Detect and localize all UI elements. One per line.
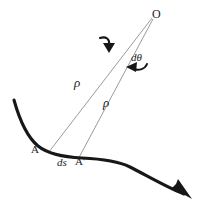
label-arc-length-ds: ds xyxy=(57,157,67,168)
label-point-a: A xyxy=(31,144,39,155)
curve-path xyxy=(14,100,184,194)
label-d-theta: dθ xyxy=(131,52,142,63)
angle-arrow-inner-head xyxy=(126,62,137,72)
radius-line-2 xyxy=(79,19,153,158)
label-rho-2: ρ xyxy=(103,96,109,109)
path-arrowhead xyxy=(172,179,192,199)
curvature-diagram: O dθ ρ ρ A ds A' xyxy=(0,0,206,208)
label-point-a-prime: A' xyxy=(75,156,85,167)
angle-arrow-outer-head xyxy=(103,43,115,53)
label-rho-1: ρ xyxy=(74,76,80,89)
label-center-point: O xyxy=(152,8,161,20)
